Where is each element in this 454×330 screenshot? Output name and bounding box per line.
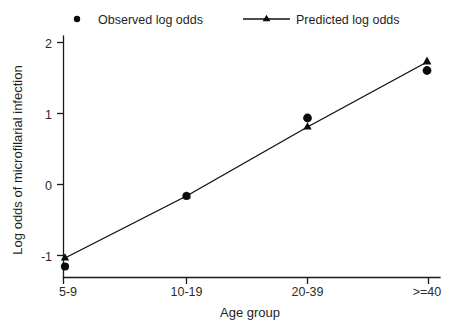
chart-legend: Observed log odds Predicted log odds <box>74 13 400 27</box>
x-tick-label: 10-19 <box>171 285 203 299</box>
x-tick-label: 5-9 <box>59 285 77 299</box>
chart-figure: Observed log odds Predicted log odds 2 1… <box>0 0 454 330</box>
y-tick-label: 2 <box>45 37 52 51</box>
legend-marker-observed-icon <box>74 16 80 22</box>
data-point-predicted <box>423 57 432 65</box>
y-tick-label: -1 <box>41 250 52 264</box>
y-axis-title: Log odds of microfilarial infection <box>10 65 25 254</box>
predicted-series-markers <box>61 57 432 261</box>
data-point-observed <box>303 114 312 123</box>
data-point-observed <box>61 262 69 270</box>
x-axis-ticks: 5-9 10-19 20-39 >=40 <box>59 278 441 300</box>
x-tick-label: 20-39 <box>292 285 324 299</box>
predicted-series-line <box>65 62 427 258</box>
y-tick-label: 1 <box>45 108 52 122</box>
x-axis-title: Age group <box>220 305 280 320</box>
legend-label-observed: Observed log odds <box>98 13 203 27</box>
chart-canvas: Observed log odds Predicted log odds 2 1… <box>0 0 454 330</box>
y-axis-ticks: 2 1 0 -1 <box>41 37 64 264</box>
y-tick-label: 0 <box>45 179 52 193</box>
x-tick-label: >=40 <box>413 285 442 299</box>
data-point-observed <box>423 66 432 75</box>
legend-marker-predicted-triangle-icon <box>263 15 271 21</box>
data-point-observed <box>182 192 190 200</box>
observed-series-markers <box>61 66 432 271</box>
legend-label-predicted: Predicted log odds <box>296 13 400 27</box>
